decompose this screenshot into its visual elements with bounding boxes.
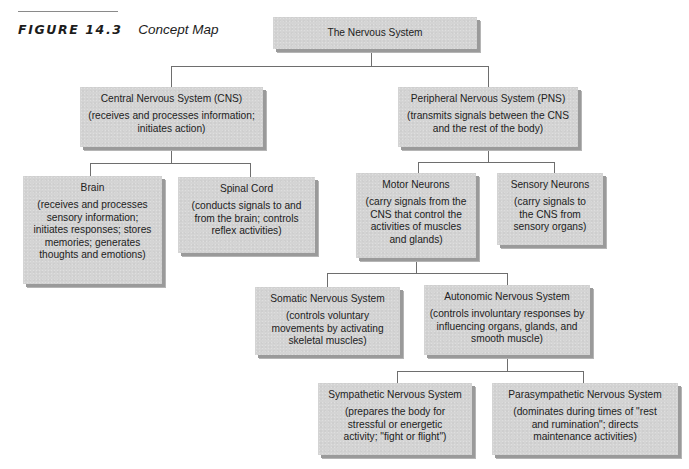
node-title: Somatic Nervous System	[255, 293, 400, 305]
connector	[416, 260, 417, 273]
connector	[171, 150, 172, 163]
figure-label: FIGURE 14.3	[18, 22, 123, 37]
connector	[327, 273, 507, 274]
node-description: (controls voluntary movements by activat…	[255, 310, 400, 347]
node-title: Sensory Neurons	[497, 179, 603, 191]
node-description: (transmits signals between the CNS and t…	[398, 110, 578, 135]
figure-title: Concept Map	[138, 22, 218, 37]
connector	[488, 66, 489, 87]
node-title: Autonomic Nervous System	[424, 291, 590, 303]
node-title: Parasympathetic Nervous System	[492, 389, 678, 401]
node-title: Brain	[23, 182, 162, 194]
caption-rule	[18, 11, 118, 12]
node-title: Motor Neurons	[356, 179, 476, 191]
node-description: (conducts signals to and from the brain;…	[178, 200, 315, 237]
figure-caption: FIGURE 14.3 Concept Map	[18, 22, 219, 37]
node-parasympathetic: Parasympathetic Nervous System (dominate…	[492, 383, 678, 455]
node-motor-neurons: Motor Neurons (carry signals from the CN…	[356, 173, 476, 258]
node-title: Central Nervous System (CNS)	[80, 93, 263, 105]
node-somatic: Somatic Nervous System (controls volunta…	[255, 287, 400, 355]
node-title: Peripheral Nervous System (PNS)	[398, 93, 578, 105]
connector	[397, 371, 583, 372]
node-title: The Nervous System	[273, 27, 477, 39]
connector	[90, 163, 250, 164]
connector	[90, 163, 91, 177]
node-title: Spinal Cord	[178, 183, 315, 195]
node-description: (dominates during times of "rest and rum…	[492, 406, 678, 443]
connector	[171, 66, 172, 87]
connector	[371, 50, 372, 66]
node-autonomic: Autonomic Nervous System (controls invol…	[424, 285, 590, 355]
connector	[250, 163, 251, 177]
node-description: (carry signals from the CNS that control…	[356, 196, 476, 246]
node-description: (carry signals to the CNS from sensory o…	[497, 196, 603, 233]
connector	[507, 358, 508, 371]
node-spinal-cord: Spinal Cord (conducts signals to and fro…	[178, 177, 315, 253]
node-pns: Peripheral Nervous System (PNS) (transmi…	[398, 87, 578, 147]
connector	[488, 150, 489, 162]
node-sympathetic: Sympathetic Nervous System (prepares the…	[318, 383, 472, 455]
node-brain: Brain (receives and processes sensory in…	[23, 176, 162, 284]
node-description: (receives and processes sensory informat…	[23, 199, 162, 261]
node-title: Sympathetic Nervous System	[318, 389, 472, 401]
node-sensory-neurons: Sensory Neurons (carry signals to the CN…	[497, 173, 603, 245]
node-description: (controls involuntary responses by influ…	[424, 308, 590, 345]
node-nervous-system: The Nervous System	[273, 17, 477, 49]
connector	[418, 162, 554, 163]
connector	[171, 66, 488, 67]
node-cns: Central Nervous System (CNS) (receives a…	[80, 87, 263, 147]
connector	[327, 273, 328, 287]
node-description: (prepares the body for stressful or ener…	[318, 406, 472, 443]
node-description: (receives and processes information; ini…	[80, 110, 263, 135]
